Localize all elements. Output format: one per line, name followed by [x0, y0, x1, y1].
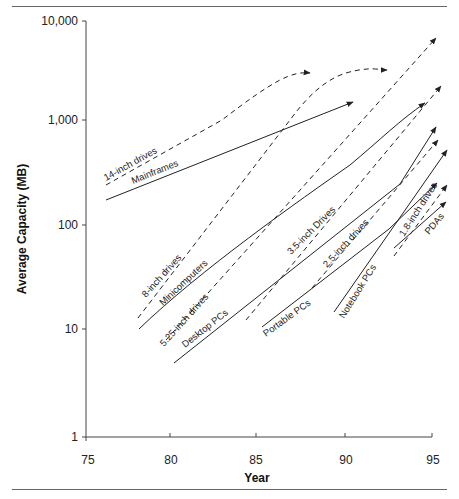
label-3-5-inch-drives: 3.5-inch Drives — [285, 204, 338, 257]
x-axis — [86, 433, 432, 441]
label-2-5-inch-drives: 2.5-inch drives — [320, 216, 370, 269]
series-3-5-inch-drives — [246, 86, 441, 320]
y-axis — [82, 21, 86, 437]
capacity-chart: 10,000 1,000 100 10 1 75 80 85 90 95 Yea… — [0, 0, 459, 499]
label-notebook-pcs: Notebook PCs — [336, 262, 378, 320]
series-minicomputers — [139, 103, 425, 329]
series-8-inch-drives — [138, 69, 387, 318]
y-tick-1000: 1,000 — [48, 113, 78, 127]
y-tick-10: 10 — [65, 322, 79, 336]
label-portable-pcs: Portable PCs — [261, 297, 313, 339]
y-tick-1: 1 — [71, 430, 78, 444]
x-tick-95: 95 — [426, 453, 440, 467]
label-pdas: PDAs — [422, 210, 446, 236]
x-tick-75: 75 — [81, 453, 95, 467]
x-tick-85: 85 — [249, 453, 263, 467]
x-tick-80: 80 — [164, 453, 178, 467]
y-tick-10000: 10,000 — [41, 14, 78, 28]
series-14-inch-drives — [106, 73, 310, 185]
x-tick-90: 90 — [339, 453, 353, 467]
y-tick-100: 100 — [58, 218, 78, 232]
y-axis-title: Average Capacity (MB) — [15, 164, 29, 294]
series-5-25-inch-drives — [166, 38, 436, 340]
x-axis-title: Year — [244, 471, 270, 485]
